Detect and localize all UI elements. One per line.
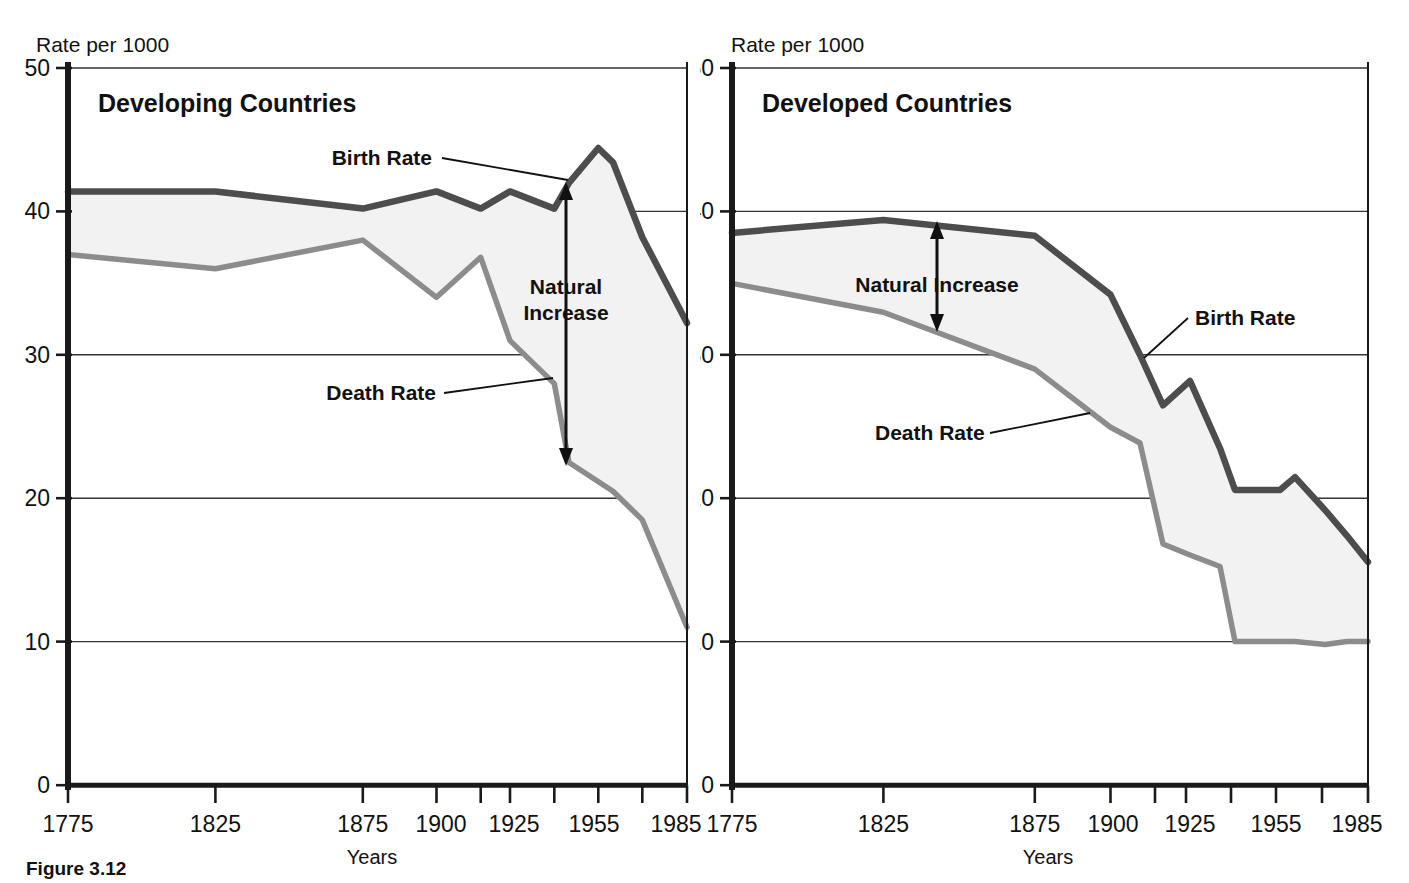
y-tick-label-40: 40	[24, 198, 50, 224]
y-tick-label-30-developed: 30	[700, 342, 714, 368]
chart-svg-developed: Rate per 1000	[700, 0, 1409, 883]
natural-increase-fill-developed	[732, 220, 1368, 645]
x-tick-label-1875: 1875	[337, 811, 388, 837]
birth-rate-label-developing: Birth Rate	[332, 146, 432, 169]
y-axis-unit-label-developed: Rate per 1000	[731, 33, 864, 56]
panel-title-developing: Developing Countries	[98, 89, 356, 117]
y-tick-label-0-developed: 0	[701, 772, 714, 798]
x-tick-label-1925-developed: 1925	[1164, 811, 1215, 837]
birth-rate-leader-line-developed	[1144, 318, 1188, 358]
natural-increase-label-line1-developing: Natural	[530, 275, 602, 298]
x-tick-label-1825-developed: 1825	[858, 811, 909, 837]
y-tick-label-10: 10	[24, 629, 50, 655]
natural-increase-label-developed: Natural Increase	[855, 273, 1018, 296]
y-axis-unit-label: Rate per 1000	[36, 33, 169, 56]
natural-increase-label-line2-developing: Increase	[523, 301, 608, 324]
x-tick-label-1900: 1900	[415, 811, 466, 837]
panel-title-developed: Developed Countries	[762, 89, 1012, 117]
y-tick-label-20: 20	[24, 485, 50, 511]
x-axis-title-developed: Years	[1023, 846, 1073, 868]
y-tick-label-50: 50	[24, 55, 50, 81]
y-tick-label-50-developed: 50	[700, 55, 714, 81]
death-rate-leader-line-developing	[444, 378, 553, 393]
death-rate-label-developed: Death Rate	[875, 421, 985, 444]
x-tick-label-1875-developed: 1875	[1009, 811, 1060, 837]
x-tick-label-1825: 1825	[190, 811, 241, 837]
figure-container: Rate per 1000	[0, 0, 1409, 883]
y-tick-label-10-developed: 10	[700, 629, 714, 655]
x-tick-label-1985-developed: 1985	[1331, 811, 1382, 837]
chart-panel-developed: Rate per 1000	[700, 0, 1409, 883]
death-rate-leader-line-developed	[990, 413, 1090, 433]
y-tick-label-20-developed: 20	[700, 485, 714, 511]
death-rate-label-developing: Death Rate	[326, 381, 436, 404]
x-axis-title-developing: Years	[347, 846, 397, 868]
x-tick-label-1955-developed: 1955	[1250, 811, 1301, 837]
birth-rate-label-developed: Birth Rate	[1195, 306, 1295, 329]
y-tick-label-30: 30	[24, 342, 50, 368]
x-tick-label-1775-developed: 1775	[706, 811, 757, 837]
figure-caption: Figure 3.12	[26, 858, 126, 880]
x-tick-label-1955: 1955	[568, 811, 619, 837]
x-tick-label-1985: 1985	[650, 811, 701, 837]
chart-svg-developing: Rate per 1000	[0, 0, 704, 883]
x-tick-label-1925: 1925	[488, 811, 539, 837]
x-tickmarks-developed	[732, 785, 1368, 803]
y-tick-label-0: 0	[37, 772, 50, 798]
x-tick-label-1775: 1775	[42, 811, 93, 837]
y-tick-label-40-developed: 40	[700, 198, 714, 224]
x-tick-label-1900-developed: 1900	[1087, 811, 1138, 837]
birth-rate-leader-line-developing	[442, 158, 568, 180]
x-tickmarks-developing	[68, 785, 687, 803]
chart-panel-developing: Rate per 1000	[0, 0, 704, 883]
